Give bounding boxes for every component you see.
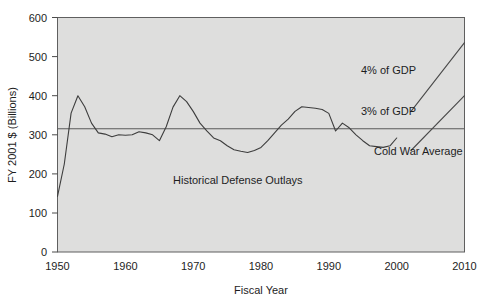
x-tick-label-1970: 1970 — [181, 260, 205, 272]
y-tick-label-0: 0 — [41, 246, 47, 258]
annotation-four-percent-gdp: 4% of GDP — [361, 64, 416, 76]
y-tick-label-400: 400 — [29, 90, 47, 102]
y-tick-label-600: 600 — [29, 12, 47, 24]
y-tick-label-300: 300 — [29, 129, 47, 141]
y-tick-label-100: 100 — [29, 207, 47, 219]
y-tick-label-200: 200 — [29, 168, 47, 180]
annotation-historical-defense-outlays: Historical Defense Outlays — [173, 174, 303, 186]
chart-canvas: 600 500 400 300 200 100 0 FY 2001 $ (Bil… — [0, 0, 491, 307]
x-axis-title: Fiscal Year — [234, 284, 288, 296]
y-axis-title: FY 2001 $ (Billions) — [6, 87, 18, 183]
x-tick-label-2000: 2000 — [384, 260, 408, 272]
defense-outlays-chart: 600 500 400 300 200 100 0 FY 2001 $ (Bil… — [0, 0, 491, 307]
x-tick-label-1960: 1960 — [113, 260, 137, 272]
annotation-three-percent-gdp: 3% of GDP — [361, 105, 416, 117]
x-tick-label-1980: 1980 — [249, 260, 273, 272]
y-tick-label-500: 500 — [29, 51, 47, 63]
y-axis-ticks — [52, 18, 58, 253]
annotation-cold-war-average: Cold War Average — [374, 145, 463, 157]
x-tick-label-1950: 1950 — [45, 260, 69, 272]
x-tick-label-2010: 2010 — [452, 260, 476, 272]
x-tick-label-1990: 1990 — [317, 260, 341, 272]
